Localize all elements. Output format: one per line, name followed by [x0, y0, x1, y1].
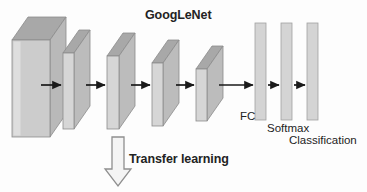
softmax-bar	[281, 23, 292, 120]
transfer-learning-label: Transfer learning	[129, 153, 229, 166]
softmax-label: Softmax	[267, 123, 309, 135]
conv-block-2	[63, 30, 90, 129]
figure-canvas: GoogLeNet FC Softmax Classification Tran…	[0, 0, 367, 192]
conv-block-5	[196, 46, 223, 121]
fc-bar	[255, 23, 266, 120]
fc-label: FC	[240, 111, 255, 123]
conv-block-4	[152, 40, 179, 126]
conv-block-1	[12, 17, 66, 137]
page-title: GoogLeNet	[145, 9, 211, 22]
classification-label: Classification	[289, 135, 357, 147]
classification-bar	[307, 23, 318, 120]
transfer-arrow	[105, 137, 131, 186]
conv-block-3	[107, 33, 135, 129]
